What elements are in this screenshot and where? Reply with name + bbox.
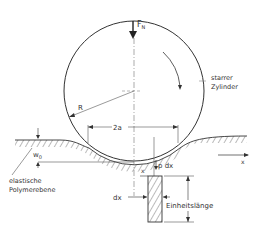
x-axis-label: x	[241, 158, 245, 165]
contact-width-dimension	[88, 125, 178, 143]
pressure-label: p dx	[158, 162, 173, 170]
rotation-arrow-icon	[163, 52, 182, 90]
dx-label: dx	[113, 194, 122, 202]
elastic-plane-hatch	[15, 136, 247, 172]
unit-length-label: Einheitslänge	[166, 202, 213, 210]
plane-label-line2: Polymerebene	[9, 186, 55, 194]
radius-label: R	[78, 104, 83, 112]
contact-width-label: 2a	[113, 124, 122, 132]
cylinder-label-line2: Zylinder	[211, 83, 238, 91]
depth-label: w0	[33, 151, 42, 160]
rolling-cylinder-diagram: FN starrer Zylinder R 2a w0 elastische P…	[0, 0, 262, 239]
cylinder-label-line1: starrer	[211, 74, 233, 82]
force-arrow-icon	[129, 21, 137, 39]
x-position-label: x	[141, 167, 145, 174]
plane-label-line1: elastische	[9, 177, 42, 185]
unit-length-dimension	[164, 176, 194, 222]
unit-element	[148, 176, 162, 222]
x-axis-arrow-icon	[218, 153, 249, 157]
